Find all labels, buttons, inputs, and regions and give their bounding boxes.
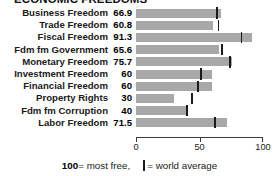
chart-row: Fdm fm Government65.6 [0, 44, 279, 56]
bar-track [136, 68, 263, 80]
world-average-marker [221, 44, 223, 55]
chart-title: ECONOMIC FREEDOMS [14, 0, 147, 5]
axis-tick-label: 100 [255, 142, 270, 152]
chart-legend: 100 = most free, = world average [0, 157, 279, 173]
value-label: 71.5 [110, 117, 132, 129]
category-label: Fdm fm Corruption [0, 105, 108, 117]
world-average-marker [197, 81, 199, 92]
axis-tick-label: 50 [194, 142, 204, 152]
bar [136, 45, 219, 54]
chart-row: Investment Freedom60 [0, 68, 279, 80]
world-average-marker [216, 7, 218, 18]
legend-scale-text: = most free, [78, 160, 130, 171]
world-average-marker [186, 105, 188, 116]
world-average-marker [214, 117, 216, 128]
bar-track [136, 92, 263, 104]
value-label: 60 [110, 68, 132, 80]
chart-row: Property Rights30 [0, 92, 279, 104]
category-label: Monetary Freedom [0, 56, 108, 68]
value-label: 75.7 [110, 56, 132, 68]
bar [136, 82, 212, 91]
chart-row: Financial Freedom60 [0, 80, 279, 92]
category-label: Financial Freedom [0, 80, 108, 92]
world-average-marker [229, 56, 231, 67]
bar [136, 94, 174, 103]
value-label: 30 [110, 92, 132, 104]
bar [136, 33, 252, 42]
legend-scale-value: 100 [62, 160, 78, 171]
chart-row: Business Freedom66.9 [0, 7, 279, 19]
category-label: Fdm fm Government [0, 44, 108, 56]
axis-tick [200, 138, 201, 142]
category-label: Business Freedom [0, 7, 108, 19]
bar [136, 9, 221, 18]
world-average-marker [241, 32, 243, 43]
chart-row: Fiscal Freedom91.3 [0, 31, 279, 43]
bar-track [136, 7, 263, 19]
legend-marker-text: = world average [147, 160, 217, 171]
value-label: 40 [110, 105, 132, 117]
bar [136, 57, 232, 66]
category-label: Trade Freedom [0, 19, 108, 31]
chart-row: Trade Freedom60.8 [0, 19, 279, 31]
category-label: Fiscal Freedom [0, 31, 108, 43]
value-label: 66.9 [110, 7, 132, 19]
world-average-marker-icon [143, 160, 145, 171]
bar [136, 21, 213, 30]
bar-track [136, 117, 263, 129]
value-label: 91.3 [110, 31, 132, 43]
chart-row: Fdm fm Corruption40 [0, 105, 279, 117]
axis-tick [262, 138, 263, 142]
world-average-marker [200, 68, 202, 79]
value-label: 60.8 [110, 19, 132, 31]
bar-track [136, 44, 263, 56]
bar-track [136, 105, 263, 117]
bar-track [136, 80, 263, 92]
value-label: 60 [110, 80, 132, 92]
world-average-marker [218, 20, 220, 31]
value-label: 65.6 [110, 44, 132, 56]
bar-track [136, 31, 263, 43]
bar-track [136, 56, 263, 68]
bar-track [136, 19, 263, 31]
bar [136, 106, 187, 115]
axis-tick [136, 138, 137, 142]
category-label: Labor Freedom [0, 117, 108, 129]
axis-tick-label: 0 [133, 142, 138, 152]
category-label: Property Rights [0, 92, 108, 104]
chart-row: Monetary Freedom75.7 [0, 56, 279, 68]
bar-chart: Business Freedom66.9Trade Freedom60.8Fis… [0, 7, 279, 137]
chart-title-clip: ECONOMIC FREEDOMS [0, 0, 279, 7]
chart-row: Labor Freedom71.5 [0, 117, 279, 129]
category-label: Investment Freedom [0, 68, 108, 80]
world-average-marker [191, 93, 193, 104]
